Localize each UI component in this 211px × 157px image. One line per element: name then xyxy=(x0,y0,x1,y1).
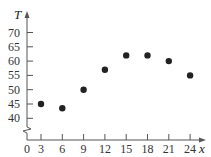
y-tick-label: 50 xyxy=(8,83,20,97)
y-tick-label: 55 xyxy=(8,68,20,82)
y-axis-label: T xyxy=(14,7,22,22)
x-ticks: 03691215182124 xyxy=(24,134,196,156)
y-tick-label: 70 xyxy=(8,26,20,40)
data-point xyxy=(187,72,193,78)
y-ticks: 40455055606570 xyxy=(8,26,33,126)
x-tick-label: 6 xyxy=(59,142,65,156)
x-tick-label: 3 xyxy=(38,142,44,156)
data-point xyxy=(38,101,44,107)
y-tick-label: 60 xyxy=(8,54,20,68)
x-tick-label: 0 xyxy=(24,142,30,156)
data-point xyxy=(102,66,108,72)
y-axis: T 40455055606570 xyxy=(8,7,33,140)
x-tick-label: 18 xyxy=(142,142,154,156)
y-axis-arrow-icon xyxy=(25,11,30,18)
data-point xyxy=(144,52,150,58)
x-tick-label: 12 xyxy=(99,142,111,156)
scatter-chart: T 40455055606570 x 03691215182124 xyxy=(0,0,211,157)
data-point xyxy=(166,58,172,64)
data-point xyxy=(80,87,86,93)
data-point xyxy=(123,52,129,58)
x-tick-label: 24 xyxy=(184,142,196,156)
data-points xyxy=(38,52,194,111)
y-tick-label: 65 xyxy=(8,40,20,54)
x-axis-label: x xyxy=(198,141,205,156)
data-point xyxy=(59,105,65,111)
y-tick-label: 40 xyxy=(8,111,20,125)
x-axis: x 03691215182124 xyxy=(24,134,206,156)
x-tick-label: 9 xyxy=(81,142,87,156)
x-tick-label: 15 xyxy=(120,142,132,156)
y-tick-label: 45 xyxy=(8,97,20,111)
x-tick-label: 21 xyxy=(163,142,175,156)
